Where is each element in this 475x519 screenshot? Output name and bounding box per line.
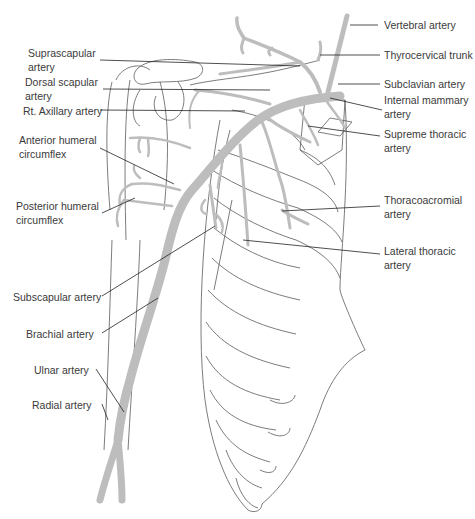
label-subscapular-artery: Subscapular artery <box>13 290 101 304</box>
anatomy-diagram: Suprascapular artery Dorsal scapular art… <box>0 0 475 519</box>
label-subclavian-artery: Subclavian artery <box>384 77 465 91</box>
label-thyrocervical-trunk: Thyrocervical trunk <box>384 48 473 62</box>
label-ulnar-artery: Ulnar artery <box>34 363 89 377</box>
label-vertebral-artery: Vertebral artery <box>384 18 456 32</box>
label-posterior-humeral-circumflex: Posterior humeral circumflex <box>16 199 99 227</box>
arteries <box>100 16 347 500</box>
label-radial-artery: Radial artery <box>32 398 92 412</box>
label-dorsal-scapular-artery: Dorsal scapular artery <box>25 75 98 103</box>
label-thoracoacromial-artery: Thoracoacromial artery <box>384 193 462 221</box>
label-anterior-humeral-circumflex: Anterior humeral circumflex <box>19 133 97 161</box>
label-rt-axillary-artery: Rt. Axillary artery <box>23 104 102 118</box>
label-internal-mammary-artery: Internal mammary artery <box>384 93 469 121</box>
label-supreme-thoracic-artery: Supreme thoracic artery <box>384 127 466 155</box>
label-suprascapular-artery: Suprascapular artery <box>28 46 96 74</box>
label-lateral-thoracic-artery: Lateral thoracic artery <box>384 244 456 272</box>
rib-cage-outline <box>104 60 365 512</box>
label-brachial-artery: Brachial artery <box>26 327 94 341</box>
